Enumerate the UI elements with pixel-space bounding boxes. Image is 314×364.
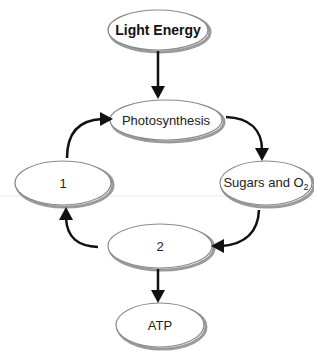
node-blank-2 [108, 224, 214, 270]
node-sugars-o2 [220, 161, 314, 207]
node-photosynthesis [110, 100, 224, 142]
node-blank-1 [15, 161, 113, 207]
arrow-photosynthesis-to-sugars [226, 117, 262, 150]
arrow-1-to-photosynthesis [67, 119, 102, 158]
arrow-2-to-1 [66, 218, 98, 247]
node-light-energy [108, 10, 210, 52]
node-atp [116, 303, 206, 349]
cycle-diagram: Light Energy Photosynthesis Sugars and O… [0, 0, 314, 364]
diagram-canvas [0, 0, 314, 364]
arrowhead-icon [59, 207, 73, 220]
arrowhead-icon [151, 290, 165, 303]
arrowhead-icon [255, 148, 269, 161]
arrow-sugars-to-2 [222, 210, 259, 246]
arrowhead-icon [151, 86, 165, 99]
